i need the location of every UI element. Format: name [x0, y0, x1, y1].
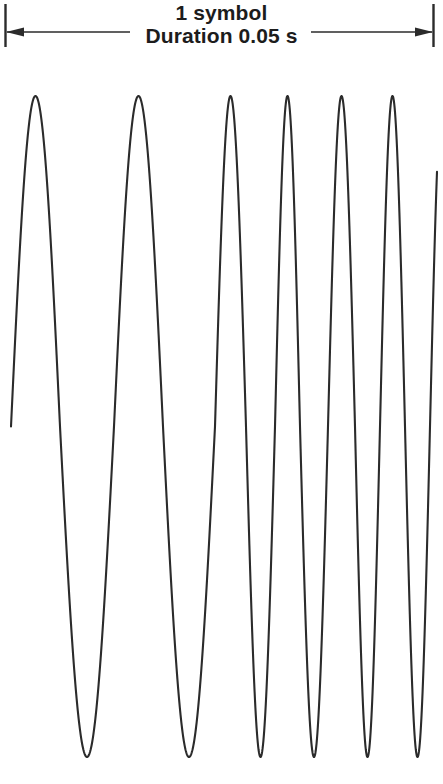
chirp-waveform-plot — [0, 60, 443, 784]
span-marker — [0, 0, 443, 60]
chirp-waveform-line — [11, 96, 437, 757]
figure-canvas: 1 symbol Duration 0.05 s — [0, 0, 443, 784]
arrow-left-icon — [6, 28, 24, 37]
arrow-right-icon — [415, 28, 433, 37]
